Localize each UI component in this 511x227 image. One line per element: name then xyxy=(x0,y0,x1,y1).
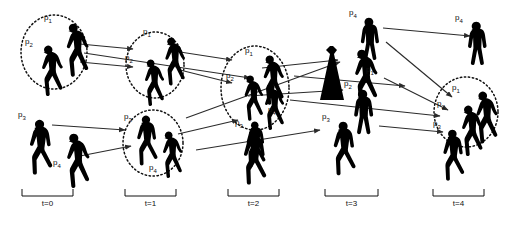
timestep-label-t1: t=1 xyxy=(125,199,176,208)
silhouette-t0-p4 xyxy=(67,134,89,188)
person-label-t1-p3: p3 xyxy=(124,113,132,123)
track-arrow-t0p3-t1p3 xyxy=(52,125,125,130)
track-arrow-t3p1-t4p1 xyxy=(386,42,452,97)
person-label-t0-p3: p3 xyxy=(18,111,26,121)
timestep-brackets xyxy=(22,189,484,196)
person-label-t3-p1: p1 xyxy=(366,66,374,76)
timestep-label-t2: t=2 xyxy=(228,199,279,208)
silhouette-t1-p2 xyxy=(145,59,164,106)
bracket-t3 xyxy=(325,189,378,196)
person-label-t1-p2: p2 xyxy=(125,54,133,64)
person-label-t0-p1: p1 xyxy=(44,14,52,24)
silhouette-t0-p3 xyxy=(30,120,52,175)
person-label-t2-p1: p1 xyxy=(245,47,253,57)
person-label-t2-p2: p2 xyxy=(226,72,234,82)
silhouette-t4-p4 xyxy=(468,22,487,65)
timestep-label-t3: t=3 xyxy=(325,199,378,208)
track-arrow-t2-t3-diag xyxy=(186,62,340,118)
timestep-label-t4: t=4 xyxy=(433,199,484,208)
silhouette-t2-p2 xyxy=(245,75,264,120)
bracket-t4 xyxy=(433,189,484,196)
person-label-t3-p3: p3 xyxy=(322,113,330,123)
silhouette-t0-p1 xyxy=(67,24,89,77)
person-label-t0-p4: p4 xyxy=(53,159,61,169)
bracket-t2 xyxy=(228,189,279,196)
person-label-t2-p3: p3 xyxy=(235,119,243,129)
person-label-t2-p4: p4 xyxy=(268,106,276,116)
bracket-t1 xyxy=(125,189,176,196)
track-arrow-t3p4-t4p4 xyxy=(383,28,470,36)
tracking-diagram: p1 p2 p3 p4 p1 p2 p3 p4 p1 p2 p4 p3 p4 p… xyxy=(0,0,511,227)
bracket-t0 xyxy=(22,189,73,196)
silhouette-t1-p3 xyxy=(137,116,157,166)
silhouette-t3-p3 xyxy=(334,122,356,176)
person-label-t4-p1: p1 xyxy=(452,84,460,94)
person-label-t0-p2: p2 xyxy=(25,38,33,48)
track-arrow-t1p1-t2p1 xyxy=(180,52,232,60)
track-arrow-t1p3p4-t2 xyxy=(178,120,238,134)
silhouette-t1-p1 xyxy=(165,37,185,85)
silhouette-t4-p1 xyxy=(476,92,497,144)
silhouette-t1-p4 xyxy=(163,131,182,178)
person-label-t4-p4: p4 xyxy=(455,14,463,24)
timestep-label-t0: t=0 xyxy=(22,199,73,208)
person-label-t4-p2: p2 xyxy=(437,100,445,110)
silhouette-t3-cone xyxy=(320,46,344,100)
diagram-canvas xyxy=(0,0,511,227)
person-label-t3-p4: p4 xyxy=(349,9,357,19)
silhouette-t3-p2 xyxy=(354,90,373,134)
person-label-t4-p3: p3 xyxy=(433,120,441,130)
pedestrian-silhouettes xyxy=(30,18,498,188)
person-label-t1-p1: p1 xyxy=(143,28,151,38)
person-label-t1-p4: p4 xyxy=(149,164,157,174)
person-label-t3-p2: p2 xyxy=(344,80,352,90)
silhouette-t4-p3 xyxy=(443,130,464,181)
